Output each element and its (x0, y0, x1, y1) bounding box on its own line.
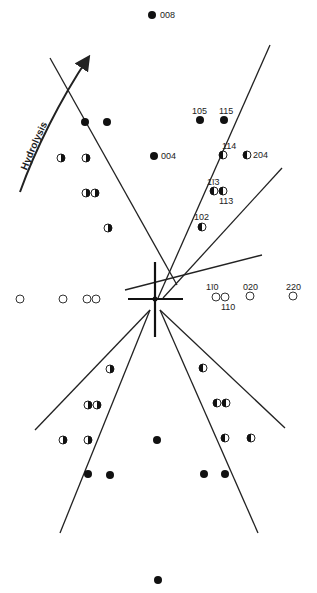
spot-halfR (82, 189, 90, 197)
spot-open (246, 292, 254, 300)
origin-cross (128, 262, 183, 337)
sector-line (125, 255, 262, 290)
sector-line (60, 310, 150, 533)
spot-halfL (221, 434, 229, 442)
sector-line (160, 310, 258, 533)
spot-halfL (213, 399, 221, 407)
spot-label: 1ī3 (207, 177, 220, 187)
spot-open (212, 293, 220, 301)
spot-full (200, 470, 208, 478)
spot-open (16, 295, 24, 303)
spot-full (154, 576, 162, 584)
spot-full (103, 118, 111, 126)
spot-halfR (104, 224, 112, 232)
spot-label: 204 (253, 150, 268, 160)
spot-label: 114 (222, 141, 236, 151)
spot-full (148, 11, 156, 19)
spot-halfR (91, 189, 99, 197)
spot-label: 1ī0 (206, 282, 219, 292)
spot-label: 113 (219, 196, 233, 206)
spot-full (220, 116, 228, 124)
hydrolysis-label: Hydrolysis (18, 119, 49, 171)
hydrolysis-arrow-icon (20, 58, 88, 192)
spot-open (83, 295, 91, 303)
spot-label: 020 (243, 282, 258, 292)
spot-open (221, 293, 229, 301)
spot-open (59, 295, 67, 303)
spot-full (150, 152, 158, 160)
diffraction-diagram: Hydrolysis 0081051150041142041ī31131021ī… (0, 0, 317, 593)
spot-halfL (198, 223, 206, 231)
sector-line (158, 45, 270, 298)
spot-full (153, 436, 161, 444)
origin-dot (153, 297, 158, 302)
spot-halfL (222, 399, 230, 407)
spot-halfR (84, 436, 92, 444)
spot-halfL (199, 364, 207, 372)
spot-full (221, 470, 229, 478)
spot-full (196, 116, 204, 124)
spot-label: 220 (286, 282, 301, 292)
spot-full (106, 471, 114, 479)
spot-halfL (219, 151, 227, 159)
spot-full (81, 118, 89, 126)
diagram-svg: Hydrolysis 0081051150041142041ī31131021ī… (0, 0, 317, 593)
spot-halfR (82, 154, 90, 162)
spot-label: 008 (160, 10, 175, 20)
spot-halfL (210, 187, 218, 195)
spot-halfL (219, 187, 227, 195)
spot-halfR (59, 436, 67, 444)
spot-label: 115 (219, 106, 233, 116)
spot-label: 102 (194, 212, 209, 222)
spot-label: 004 (161, 151, 176, 161)
spot-halfL (243, 151, 251, 159)
spot-open (92, 295, 100, 303)
spot-halfR (106, 365, 114, 373)
spot-halfR (93, 401, 101, 409)
spot-full (84, 470, 92, 478)
sector-line (35, 310, 150, 430)
sector-line (160, 310, 285, 428)
spot-halfR (57, 154, 65, 162)
spot-open (289, 292, 297, 300)
spot-halfR (84, 401, 92, 409)
spot-halfL (247, 434, 255, 442)
spot-label: 110 (221, 302, 235, 312)
spot-label: 105 (192, 106, 207, 116)
sector-line (50, 58, 177, 285)
